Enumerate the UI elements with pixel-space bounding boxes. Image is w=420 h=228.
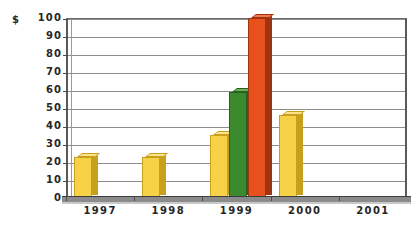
x-tick-mark [271, 196, 272, 201]
y-tick-label: 30 [0, 139, 62, 149]
bar-front-face [229, 92, 247, 198]
y-tick-label: 40 [0, 121, 62, 131]
bar-front-face [248, 18, 266, 198]
y-tick-label: 70 [0, 67, 62, 77]
x-tick-label: 2001 [333, 205, 413, 216]
y-tick-label: 100 [0, 13, 62, 23]
gridline [68, 37, 405, 38]
bar [210, 135, 228, 198]
y-tick-label: 60 [0, 85, 62, 95]
y-tick-label: 80 [0, 49, 62, 59]
bar-side-face [92, 154, 98, 195]
y-tick-label: 20 [0, 157, 62, 167]
x-axis: 19971998199920002001 [0, 205, 420, 225]
y-tick-mark [63, 145, 68, 146]
bar-front-face [210, 135, 228, 198]
bar-front-face [279, 115, 297, 198]
bar-side-face [160, 154, 166, 195]
bar-chart: $ 0102030405060708090100 199719981999200… [0, 0, 420, 228]
y-tick-mark [63, 163, 68, 164]
bar [229, 92, 247, 198]
y-tick-label: 10 [0, 175, 62, 185]
bar-side-face [297, 112, 303, 195]
y-tick-mark [63, 91, 68, 92]
y-tick-label: 90 [0, 31, 62, 41]
y-tick-mark [63, 19, 68, 20]
x-tick-mark [134, 196, 135, 201]
bar [279, 115, 297, 198]
bar-side-face [266, 15, 272, 195]
y-axis: 0102030405060708090100 [0, 0, 62, 198]
y-tick-mark [63, 73, 68, 74]
y-tick-mark [63, 55, 68, 56]
bar [74, 157, 92, 198]
chart-floor-front [62, 202, 411, 204]
plot-area [66, 18, 407, 198]
bar [248, 18, 266, 198]
x-tick-mark [339, 196, 340, 201]
bar [142, 157, 160, 198]
bar-front-face [142, 157, 160, 198]
y-tick-mark [63, 127, 68, 128]
gridline [68, 55, 405, 56]
bar-front-face [74, 157, 92, 198]
x-tick-mark [66, 196, 67, 201]
y-tick-label: 50 [0, 103, 62, 113]
y-tick-mark [63, 37, 68, 38]
gridline [68, 19, 405, 20]
y-tick-mark [63, 181, 68, 182]
gridline [68, 73, 405, 74]
y-tick-label: 0 [0, 193, 62, 203]
y-tick-mark [63, 109, 68, 110]
x-tick-mark [202, 196, 203, 201]
